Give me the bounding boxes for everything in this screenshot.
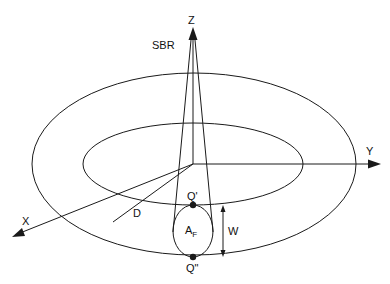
cone-line-left	[173, 40, 191, 232]
q-prime-label: Q'	[187, 190, 198, 202]
area-label-subscript: F	[192, 230, 197, 239]
point-q-double-prime	[190, 254, 196, 260]
area-label: AF	[185, 224, 197, 239]
cone-line-right	[195, 40, 213, 232]
torus-geometry-diagram: Z SBR Y X D Q' Q" W AF	[0, 0, 390, 284]
x-axis-line	[20, 164, 193, 233]
z-axis-label: Z	[188, 14, 195, 26]
x-arrow-icon	[12, 228, 25, 237]
w-arrow-up-icon	[221, 205, 226, 212]
d-line	[113, 164, 193, 222]
z-arrow-icon	[189, 27, 198, 40]
sbr-label: SBR	[152, 39, 175, 51]
q-double-prime-label: Q"	[186, 262, 199, 274]
point-q-prime	[190, 202, 196, 208]
d-label: D	[133, 207, 141, 219]
w-label: W	[228, 225, 239, 237]
y-axis-label: Y	[366, 145, 374, 157]
x-axis-label: X	[22, 215, 30, 227]
y-arrow-icon	[368, 160, 381, 169]
